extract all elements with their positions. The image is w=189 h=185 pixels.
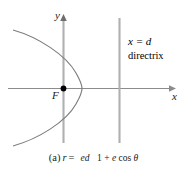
caption-variable: r (62, 152, 66, 163)
conic-section-figure: y x F x = d directrix (a) r = ed 1 + e c… (0, 0, 189, 185)
directrix-equation-label: x = d (128, 35, 164, 47)
caption-denominator: 1 + e cos θ (95, 152, 140, 163)
caption-fraction: ed 1 + e cos θ (77, 152, 140, 164)
caption-numerator: ed (77, 153, 92, 164)
denominator-cos: cos (119, 153, 132, 163)
denominator-eccentricity: e (112, 153, 116, 163)
caption-part-label: (a) (49, 152, 61, 163)
focus-label: F (52, 90, 59, 101)
focus-point-marker (61, 86, 67, 92)
directrix-name-label: directrix (128, 50, 164, 61)
denominator-theta: θ (134, 153, 139, 163)
caption-equals-sign: = (69, 152, 75, 163)
denominator-prefix: 1 + (97, 153, 109, 163)
caption-formula: (a) r = ed 1 + e cos θ (0, 152, 189, 164)
x-axis-label: x (172, 91, 177, 102)
y-axis-label: y (55, 10, 60, 21)
y-axis-arrowhead (60, 14, 67, 21)
directrix-label-group: x = d directrix (128, 35, 164, 61)
